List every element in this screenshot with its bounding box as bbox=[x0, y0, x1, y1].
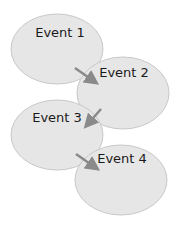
node-label: Event 4 bbox=[97, 151, 147, 166]
event-flow-diagram: Event 1 Event 2 Event 3 Event 4 bbox=[0, 0, 176, 225]
node-label: Event 2 bbox=[99, 65, 149, 80]
node-event-4: Event 4 bbox=[75, 145, 167, 215]
node-label: Event 3 bbox=[32, 110, 82, 125]
node-label: Event 1 bbox=[35, 25, 85, 40]
